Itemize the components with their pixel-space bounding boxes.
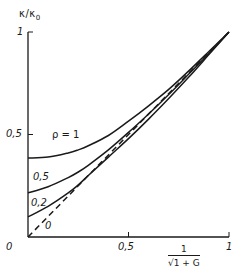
y-axis-label: κ/κ0 [19, 9, 41, 23]
y-tick-label-0-5: 0,5 [6, 129, 22, 139]
y-axis-label-text: κ/κ [19, 8, 36, 19]
x-tick-label-0-5: 0,5 [118, 242, 134, 252]
curve-label-rho-0-2: 0,2 [31, 198, 47, 208]
y-tick-label-1: 1 [17, 27, 23, 37]
series-line-2 [28, 32, 229, 217]
x-axis-label-denominator: √1 + G [168, 256, 200, 268]
x-tick-label-1: 1 [226, 242, 232, 252]
x-axis-label-numerator: 1 [168, 244, 200, 256]
chart-canvas [0, 0, 241, 278]
x-axis-label: 1 √1 + G [168, 244, 200, 268]
y-axis-label-subscript: 0 [36, 14, 41, 22]
curve-label-rho-0-5: 0,5 [33, 172, 49, 182]
curve-label-rho-1: ρ = 1 [52, 130, 79, 140]
curve-label-rho-0: 0 [45, 221, 51, 231]
origin-label: 0 [6, 242, 12, 252]
series-line-1 [28, 32, 229, 193]
